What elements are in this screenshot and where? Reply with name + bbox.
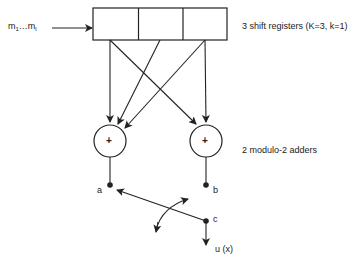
- register-to-adder-connections: [110, 40, 206, 128]
- adders-label: 2 modulo-2 adders: [242, 145, 317, 155]
- input-label: m1…ml: [8, 21, 37, 32]
- node-c-label: c: [213, 214, 218, 224]
- node-a-label: a: [97, 185, 102, 195]
- rotation-arrow: [156, 199, 188, 230]
- node-a: [107, 182, 113, 188]
- right-adder-symbol: +: [202, 135, 208, 146]
- commutator-switch: [117, 190, 206, 221]
- node-b-label: b: [213, 185, 218, 195]
- encoder-diagram: [0, 0, 359, 265]
- shift-register-label: 3 shift registers (K=3, k=1): [242, 21, 348, 31]
- output-label: u (x): [215, 244, 233, 254]
- shift-register: [93, 8, 227, 40]
- node-b: [203, 182, 209, 188]
- left-adder-symbol: +: [106, 135, 112, 146]
